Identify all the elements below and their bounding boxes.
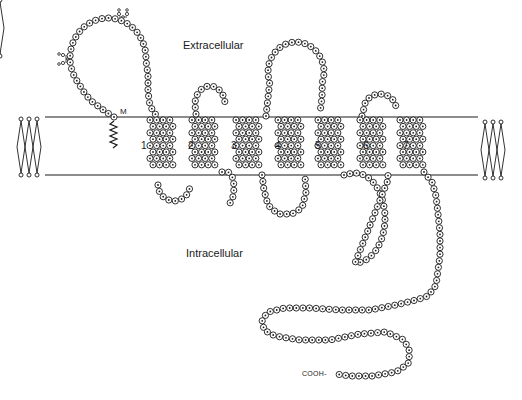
intracellular-label: Intracellular [186,247,243,259]
helix-number-7: 7 [403,140,409,151]
helix-number-2: 2 [188,140,194,151]
helix-number-4: 4 [275,140,281,151]
helix-number-3: 3 [231,140,237,151]
amino-acid-chain [67,15,443,379]
extracellular-label: Extracellular [183,39,244,51]
helix-number-1: 1 [141,140,147,151]
gpcr-topology-diagram: Extracellular Intracellular COOH- M 1 2 … [0,0,522,400]
phospholipid-icon-right [481,120,505,180]
helix-number-5: 5 [315,140,321,151]
helix-number-6: 6 [363,140,369,151]
diagram-canvas [0,0,522,400]
lipid-anchor-zigzag-icon [110,121,117,148]
c-terminus-label: COOH- [302,370,327,377]
lipid-anchor-label: M [120,107,127,116]
phospholipid-icon-left [0,0,4,58]
